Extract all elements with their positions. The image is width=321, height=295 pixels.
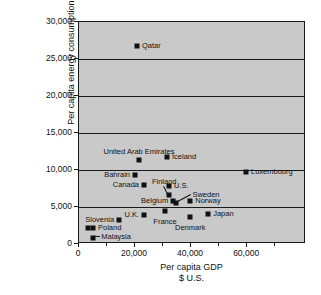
y-tick-mark — [74, 58, 78, 59]
y-tick-label: 30,000 — [46, 16, 72, 26]
point-label-denmark: Denmark — [175, 224, 205, 232]
data-point-united-arab-emirates[interactable] — [136, 158, 141, 163]
y-tick-mark — [74, 206, 78, 207]
point-label-u-k-: U.K. — [124, 211, 139, 219]
point-label-france: France — [153, 218, 176, 226]
data-point-luxembourg[interactable] — [244, 170, 249, 175]
gridline — [79, 96, 304, 97]
y-tick-label: 20,000 — [46, 90, 72, 100]
data-point-malaysia[interactable] — [91, 235, 96, 240]
gridline — [79, 207, 304, 208]
data-point-poland-2[interactable] — [85, 225, 90, 230]
point-label-japan: Japan — [213, 211, 233, 219]
x-minor-tick-mark — [106, 243, 107, 246]
x-tick-label: 60,000 — [233, 248, 259, 258]
x-axis-title-line1: Per capita GDP — [78, 262, 305, 273]
x-axis-title-line2: $ U.S. — [78, 273, 305, 284]
x-tick-label: 40,000 — [177, 248, 203, 258]
x-minor-tick-mark — [274, 243, 275, 246]
point-label-iceland: Iceland — [172, 154, 196, 162]
y-tick-mark — [74, 95, 78, 96]
point-label-finland: Finland — [152, 177, 177, 185]
data-point-canada[interactable] — [142, 182, 147, 187]
y-tick-label: 10,000 — [46, 164, 72, 174]
data-point-slovenia[interactable] — [117, 217, 122, 222]
x-minor-tick-mark — [218, 243, 219, 246]
x-tick-mark — [134, 243, 135, 247]
point-label-poland: Poland — [98, 224, 121, 232]
y-tick-mark — [74, 21, 78, 22]
data-point-u-k-[interactable] — [142, 213, 147, 218]
point-label-belgium: Belgium — [141, 197, 168, 205]
data-point-bahrain[interactable] — [133, 173, 138, 178]
x-tick-mark — [78, 243, 79, 247]
gridline — [79, 59, 304, 60]
y-tick-label: 5,000 — [51, 201, 72, 211]
scatter-chart-figure: Per capita energy consumption (kg oil eq… — [0, 0, 321, 295]
y-tick-label: 25,000 — [46, 53, 72, 63]
point-label-canada: Canada — [113, 181, 139, 189]
point-label-norway: Norway — [195, 197, 220, 205]
data-point-norway[interactable] — [188, 199, 193, 204]
data-point-japan[interactable] — [206, 212, 211, 217]
data-point-poland[interactable] — [91, 225, 96, 230]
point-label-malaysia: Malaysia — [101, 233, 131, 241]
data-point-qatar[interactable] — [135, 43, 140, 48]
data-point-sweden[interactable] — [173, 201, 178, 206]
x-tick-label: 0 — [76, 248, 81, 258]
data-point-denmark[interactable] — [188, 215, 193, 220]
plot-area: QatarUnited Arab EmiratesIcelandLuxembou… — [78, 21, 305, 243]
y-tick-mark — [74, 132, 78, 133]
point-label-bahrain: Bahrain — [104, 171, 130, 179]
point-label-qatar: Qatar — [142, 42, 161, 50]
data-point-iceland[interactable] — [164, 155, 169, 160]
x-tick-mark — [190, 243, 191, 247]
x-tick-label: 20,000 — [121, 248, 147, 258]
y-tick-mark — [74, 169, 78, 170]
x-axis-title: Per capita GDP $ U.S. — [78, 262, 305, 284]
x-minor-tick-mark — [162, 243, 163, 246]
y-tick-label: 0 — [67, 238, 72, 248]
x-tick-mark — [246, 243, 247, 247]
data-point-france[interactable] — [163, 209, 168, 214]
y-tick-label: 15,000 — [46, 127, 72, 137]
point-label-luxembourg: Luxembourg — [251, 168, 293, 176]
gridline — [79, 133, 304, 134]
